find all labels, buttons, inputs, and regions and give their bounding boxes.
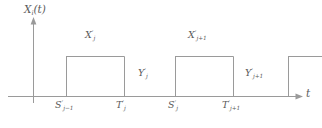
y-axis [31,17,37,103]
gap-j-label: Y′j [138,68,148,80]
pulse-j-shape [66,57,125,97]
pulse-j-plus-1-label-sub: j+1 [197,35,207,41]
renewal-process-figure: Xi(t) t X′j X′j+1 Y′j Y′j+1 S′j−1 T′j S′… [0,0,322,128]
gap-j-label-sub: j [146,73,148,79]
x-axis-label: t [306,88,310,99]
tick-label-s-j: S′j [168,100,178,112]
y-axis-label-suffix: (t) [33,3,45,15]
pulse-j-plus-1-shape [175,57,234,97]
pulse-partial-shape [288,57,322,97]
tick-label-s-j-minus-1-sub: j−1 [63,105,73,111]
pulse-j-plus-1-label-base: X [188,29,195,40]
x-axis [8,94,303,100]
pulse-j-label-sub: j [94,35,96,41]
tick-label-s-j-sub: j [176,105,178,111]
figure-canvas [0,0,322,128]
tick-label-t-j-plus-1-sub: j+1 [230,105,240,111]
tick-label-s-j-minus-1: S′j−1 [55,100,73,112]
tick-label-t-j-sub: j [124,105,126,111]
y-axis-arrowhead [31,17,37,25]
pulse-j-plus-1-label: X′j+1 [188,30,207,42]
tick-label-t-j: T′j [116,100,126,112]
pulse-j-label: X′j [85,30,95,42]
pulse-j-label-base: X [85,29,92,40]
gap-j-plus-1-label: Y′j+1 [245,68,263,80]
x-axis-arrowhead [296,94,304,100]
tick-label-t-j-plus-1: T′j+1 [222,100,240,112]
gap-j-plus-1-label-sub: j+1 [253,73,263,79]
y-axis-label: Xi(t) [24,4,46,16]
